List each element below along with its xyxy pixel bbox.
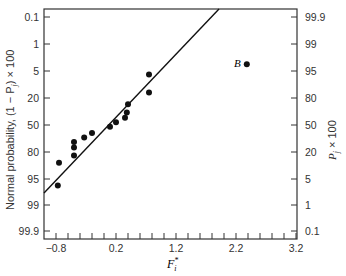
data-point <box>56 160 62 166</box>
data-point <box>125 101 131 107</box>
left-tick-label: 1 <box>33 38 39 50</box>
right-tick-label: 95 <box>305 65 317 77</box>
left-axis-label: Normal probability, (1 − Pj) × 100 <box>4 50 19 210</box>
data-point-b <box>244 61 250 67</box>
left-tick-label: 80 <box>27 146 39 158</box>
x-tick-label: 1.2 <box>169 242 184 254</box>
x-tick-label: −0.8 <box>46 242 67 254</box>
right-tick-label: 80 <box>305 92 317 104</box>
right-tick-label: 20 <box>305 146 317 158</box>
fit-line <box>44 9 219 193</box>
right-tick-label: 50 <box>305 119 317 131</box>
data-point <box>71 153 77 159</box>
data-point <box>146 90 152 96</box>
x-axis-ticks: −0.80.21.22.23.2 <box>46 233 304 254</box>
right-tick-label: 0.1 <box>305 225 320 237</box>
left-axis-ticks: 0.115205080959999.9 <box>19 11 50 237</box>
data-points <box>55 61 250 188</box>
x-tick-label: 3.2 <box>289 242 304 254</box>
left-tick-label: 99.9 <box>19 225 40 237</box>
left-tick-label: 95 <box>27 173 39 185</box>
point-label-b: B <box>234 57 241 69</box>
data-point <box>71 145 77 151</box>
data-point <box>89 130 95 136</box>
right-axis-ticks: 99.99995805020510.1 <box>291 11 326 237</box>
data-point <box>146 72 152 78</box>
data-point <box>124 109 130 115</box>
data-point <box>71 139 77 145</box>
right-axis-label: Pj × 100 <box>326 120 341 161</box>
right-tick-label: 99.9 <box>305 11 326 23</box>
data-point <box>55 183 61 189</box>
x-tick-label: 0.2 <box>109 242 124 254</box>
x-axis-label: F*i <box>166 256 178 273</box>
left-tick-label: 99 <box>27 199 39 211</box>
data-point <box>81 135 87 141</box>
data-point <box>107 124 113 130</box>
right-tick-label: 1 <box>305 199 311 211</box>
data-point <box>122 115 128 121</box>
right-tick-label: 5 <box>305 173 311 185</box>
data-point <box>113 119 119 125</box>
left-tick-label: 0.1 <box>24 11 39 23</box>
plot-frame <box>44 9 297 239</box>
left-tick-label: 5 <box>33 65 39 77</box>
chart: 0.115205080959999.9 99.99995805020510.1 … <box>0 0 346 276</box>
left-tick-label: 20 <box>27 92 39 104</box>
x-tick-label: 2.2 <box>229 242 244 254</box>
right-tick-label: 99 <box>305 38 317 50</box>
left-tick-label: 50 <box>27 119 39 131</box>
